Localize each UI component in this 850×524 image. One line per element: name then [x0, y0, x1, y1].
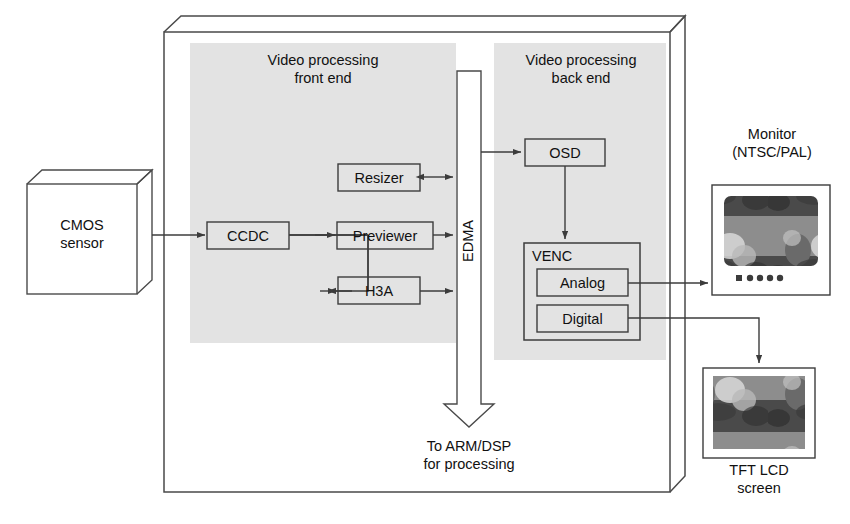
h3a-label: H3A: [338, 277, 420, 304]
tft-lcd-device[interactable]: [703, 368, 815, 458]
cmos-sensor-label-line2: sensor: [27, 235, 137, 253]
monitor-label-line1: Monitor: [702, 126, 842, 144]
back-end-title-line1: Video processing: [508, 52, 654, 70]
osd-label: OSD: [525, 139, 605, 166]
edma-output-line1: To ARM/DSP: [394, 438, 544, 456]
tft-lcd-label: TFT LCD screen: [699, 462, 819, 497]
front-end-title: Video processing front end: [250, 52, 396, 87]
monitor-label-line2: (NTSC/PAL): [702, 144, 842, 162]
digital-label: Digital: [537, 305, 628, 332]
resizer-label: Resizer: [338, 164, 420, 191]
back-end-title-line2: back end: [508, 70, 654, 88]
analog-label: Analog: [537, 269, 628, 296]
diagram-canvas: Video processing front end Video process…: [0, 0, 850, 524]
front-end-title-line1: Video processing: [250, 52, 396, 70]
back-end-title: Video processing back end: [508, 52, 654, 87]
previewer-label: Previewer: [337, 222, 433, 249]
monitor-button-square: [736, 275, 742, 281]
monitor-device[interactable]: [712, 185, 830, 295]
edma-output-line2: for processing: [394, 456, 544, 474]
edma-label: EDMA: [460, 211, 478, 271]
front-end-title-line2: front end: [250, 70, 396, 88]
edma-output-label: To ARM/DSP for processing: [394, 438, 544, 473]
ccdc-label: CCDC: [207, 222, 289, 249]
monitor-label: Monitor (NTSC/PAL): [702, 126, 842, 161]
tft-lcd-label-line2: screen: [699, 480, 819, 498]
tft-lcd-label-line1: TFT LCD: [699, 462, 819, 480]
cmos-sensor-label: CMOS sensor: [27, 217, 137, 252]
venc-label: VENC: [532, 245, 602, 267]
cmos-sensor-label-line1: CMOS: [27, 217, 137, 235]
